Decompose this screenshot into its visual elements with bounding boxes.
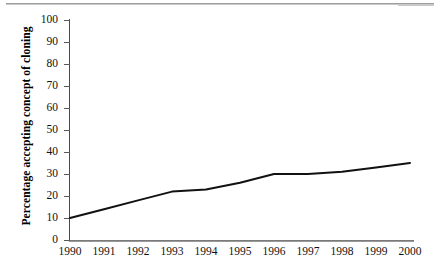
data-series-layer [0, 0, 439, 270]
line-chart-figure: Percentage accepting concept of cloning … [0, 0, 439, 270]
plot-area: 0102030405060708090100 19901991199219931… [0, 0, 439, 270]
series-line-cloning-acceptance [70, 163, 410, 218]
